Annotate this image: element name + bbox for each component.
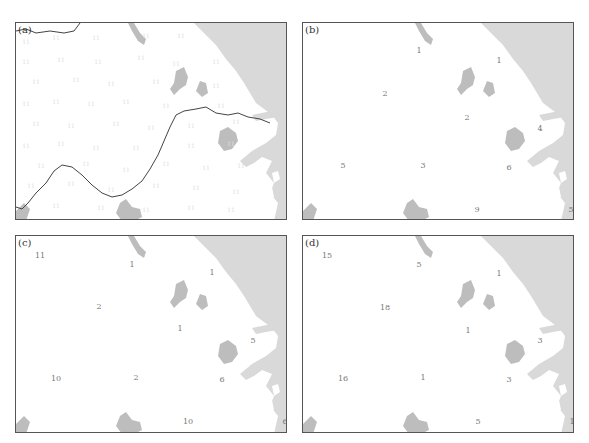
lake: [16, 416, 30, 433]
station-value: 5: [340, 161, 345, 170]
panel-label: (b): [305, 24, 319, 35]
lake: [196, 81, 208, 97]
station-value: 11: [27, 182, 35, 189]
station-value: 3: [537, 336, 542, 345]
station-value: 11: [237, 162, 245, 169]
station-value: 11: [152, 78, 160, 85]
station-value: 6: [282, 417, 287, 426]
station-value: 16: [338, 374, 348, 383]
station-value: 11: [147, 124, 155, 131]
station-value: 11: [202, 164, 210, 171]
basemap: [303, 236, 574, 433]
station-value: 11: [22, 58, 30, 65]
lake-taihu: [505, 127, 525, 151]
station-value: 11: [57, 56, 65, 63]
lake: [415, 23, 433, 45]
panel-a: (a)1111111111111111111111111111111111111…: [15, 22, 287, 220]
lake: [116, 412, 142, 433]
station-value: 2: [96, 302, 101, 311]
station-value: 3: [506, 375, 511, 384]
panel-c: (c)11112151026106: [15, 235, 287, 433]
station-value: 11: [112, 120, 120, 127]
station-value: 11: [187, 204, 195, 211]
station-value: 1: [420, 373, 425, 382]
panel-label: (c): [18, 237, 31, 248]
lake: [116, 199, 142, 220]
panel-d: (d)15511813161351: [302, 235, 574, 433]
station-value: 6: [219, 375, 224, 384]
station-value: 11: [187, 142, 195, 149]
station-value: 11: [107, 80, 115, 87]
station-value: 11: [67, 122, 75, 129]
lake: [128, 236, 146, 258]
lake: [196, 294, 208, 310]
station-value: 11: [52, 202, 60, 209]
station-value: 4: [537, 124, 542, 133]
lake: [403, 412, 429, 433]
lake: [303, 416, 317, 433]
lake: [457, 280, 475, 308]
station-value: 11: [57, 140, 65, 147]
station-value: 11: [67, 180, 75, 187]
station-value: 11: [22, 100, 30, 107]
station-value: 6: [506, 163, 511, 172]
lake: [170, 280, 188, 308]
station-value: 1: [416, 46, 421, 55]
station-value: 11: [162, 160, 170, 167]
station-value: 11: [142, 206, 150, 213]
station-value: 11: [227, 206, 235, 213]
station-value: 1: [465, 326, 470, 335]
lake: [303, 203, 317, 220]
station-value: 11: [142, 32, 150, 39]
station-value: 11: [172, 60, 180, 67]
sea-area: [481, 236, 574, 433]
lake: [483, 294, 495, 310]
station-value: 5: [475, 417, 480, 426]
station-value: 11: [217, 102, 225, 109]
station-value: 11: [107, 186, 115, 193]
station-value: 11: [92, 34, 100, 41]
basemap: [303, 23, 574, 220]
station-value: 11: [177, 32, 185, 39]
panel-b: (b)1122453695: [302, 22, 574, 220]
station-value: 11: [122, 166, 130, 173]
station-value: 11: [22, 142, 30, 149]
station-value: 11: [232, 118, 240, 125]
station-value: 2: [133, 373, 138, 382]
station-value: 1: [496, 56, 501, 65]
lake: [170, 67, 188, 95]
sea-area: [194, 236, 287, 433]
station-value: 11: [122, 98, 130, 105]
station-value: 2: [464, 113, 469, 122]
station-value: 11: [94, 58, 102, 65]
lake: [457, 67, 475, 95]
station-value: 11: [32, 78, 40, 85]
station-value: 11: [162, 102, 170, 109]
lake: [483, 81, 495, 97]
station-value: 11: [52, 98, 60, 105]
station-value: 11: [22, 38, 30, 45]
station-value: 11: [212, 58, 220, 65]
station-value: 3: [420, 161, 425, 170]
station-value: 11: [82, 160, 90, 167]
sea-area: [481, 23, 574, 220]
station-value: 11: [35, 251, 45, 260]
panel-label: (a): [18, 24, 32, 35]
lake: [403, 199, 429, 220]
station-value: 5: [568, 205, 573, 214]
station-value: 1: [129, 260, 134, 269]
station-value: 5: [416, 260, 421, 269]
station-value: 1: [569, 417, 574, 426]
lake: [16, 203, 30, 220]
station-value: 1: [496, 269, 501, 278]
station-value: 11: [92, 144, 100, 151]
station-value: 11: [227, 140, 235, 147]
lake: [415, 236, 433, 258]
station-value: 11: [132, 144, 140, 151]
station-value: 11: [152, 182, 160, 189]
station-value: 11: [192, 184, 200, 191]
station-value: 11: [137, 54, 145, 61]
basemap: [16, 236, 287, 433]
station-value: 10: [51, 374, 61, 383]
lake-taihu: [218, 340, 238, 364]
